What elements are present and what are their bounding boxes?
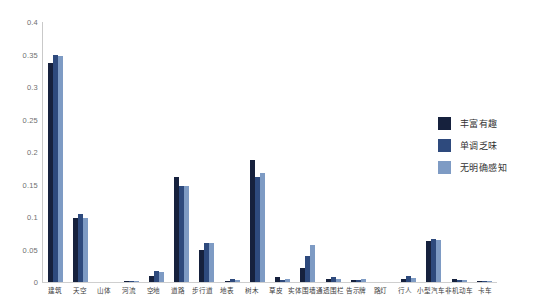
x-axis-category-label: 步行道 <box>190 286 215 295</box>
x-axis-category-label: 山体 <box>92 286 117 295</box>
x-axis-category-label: 天空 <box>68 286 93 295</box>
bar-group <box>194 22 219 282</box>
y-axis-tick-label: 0.4 <box>27 18 38 27</box>
legend-color-swatch <box>438 161 451 174</box>
legend-label: 单调乏味 <box>460 139 498 152</box>
bar[interactable] <box>361 279 366 282</box>
bar-group <box>320 22 345 282</box>
bar-group <box>220 22 245 282</box>
chart-legend: 丰富有趣单调乏味无明确感知 <box>438 112 507 178</box>
legend-label: 丰富有趣 <box>460 117 498 130</box>
bar-group <box>93 22 118 282</box>
bar-group <box>119 22 144 282</box>
bar[interactable] <box>310 245 315 282</box>
bar[interactable] <box>462 280 467 282</box>
legend-item[interactable]: 无明确感知 <box>438 156 507 178</box>
legend-item[interactable]: 丰富有趣 <box>438 112 507 134</box>
y-axis-tick-label: 0 <box>34 278 38 287</box>
x-axis-category-labels: 建筑天空山体河流空地道路步行道地表树木草皮实体围墙通透围栏告示牌路灯行人小型汽车… <box>43 286 497 295</box>
bar-group <box>169 22 194 282</box>
y-axis-tick-label: 0.15 <box>23 180 38 189</box>
bar[interactable] <box>209 243 214 282</box>
y-axis-tick-label: 0.3 <box>27 83 38 92</box>
y-axis-tick-label: 0.1 <box>27 213 38 222</box>
legend-item[interactable]: 单调乏味 <box>438 134 507 156</box>
y-axis-tick-label: 0.05 <box>23 245 38 254</box>
bar[interactable] <box>436 240 441 282</box>
x-axis-category-label: 通透围栏 <box>316 286 344 295</box>
x-axis-category-label: 行人 <box>393 286 418 295</box>
x-axis-category-label: 建筑 <box>43 286 68 295</box>
legend-color-swatch <box>438 139 451 152</box>
bar[interactable] <box>285 279 290 282</box>
bar-group <box>295 22 320 282</box>
x-axis-category-label: 卡车 <box>473 286 498 295</box>
x-axis-category-label: 告示牌 <box>344 286 369 295</box>
bar-group <box>245 22 270 282</box>
bar-group <box>371 22 396 282</box>
bar[interactable] <box>235 280 240 282</box>
bar[interactable] <box>134 281 139 282</box>
x-axis-category-label: 道路 <box>166 286 191 295</box>
bar[interactable] <box>336 279 341 282</box>
x-axis-category-label: 树木 <box>239 286 264 295</box>
bar[interactable] <box>58 56 63 282</box>
x-axis-category-label: 河流 <box>117 286 142 295</box>
bar[interactable] <box>260 173 265 282</box>
x-axis-category-label: 空地 <box>141 286 166 295</box>
bar-group <box>396 22 421 282</box>
y-axis-tick-label: 0.35 <box>23 50 38 59</box>
bar-group <box>43 22 68 282</box>
x-axis-category-label: 非机动车 <box>445 286 473 295</box>
x-axis-category-label: 草皮 <box>264 286 289 295</box>
x-axis-category-label: 地表 <box>215 286 240 295</box>
bar[interactable] <box>159 272 164 282</box>
y-axis-tick-label: 0.2 <box>27 148 38 157</box>
y-axis-tick-labels: 0.40.350.30.250.20.150.10.050 <box>0 22 38 282</box>
legend-label: 无明确感知 <box>460 161 507 174</box>
x-axis-category-label: 小型汽车 <box>417 286 445 295</box>
bar-group <box>270 22 295 282</box>
bar-chart: 0.40.350.30.250.20.150.10.050 建筑天空山体河流空地… <box>0 0 542 305</box>
bar[interactable] <box>487 281 492 282</box>
bar-group <box>68 22 93 282</box>
bar[interactable] <box>83 218 88 282</box>
legend-color-swatch <box>438 117 451 130</box>
bar-group <box>346 22 371 282</box>
x-axis-category-label: 实体围墙 <box>288 286 316 295</box>
x-axis-line <box>42 282 497 283</box>
bar-groups <box>43 22 497 282</box>
y-axis-tick-label: 0.25 <box>23 115 38 124</box>
x-axis-category-label: 路灯 <box>368 286 393 295</box>
bar[interactable] <box>411 278 416 282</box>
bar-group <box>144 22 169 282</box>
bar[interactable] <box>184 186 189 282</box>
